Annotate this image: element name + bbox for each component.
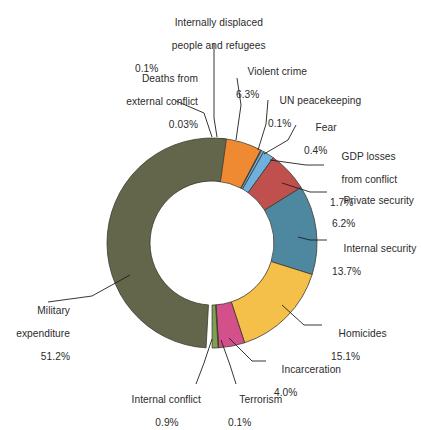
label-military-expenditure: Military expenditure 51.2%	[0, 294, 70, 385]
label-internal-conflict-value: 0.9%	[120, 417, 214, 428]
label-terrorism-line1: Terrorism	[239, 394, 282, 405]
label-un-peacekeeping-line1: UN peacekeeping	[280, 95, 362, 106]
label-terrorism: Terrorism 0.1%	[228, 383, 308, 430]
label-incarceration-line1: Incarceration	[282, 364, 342, 375]
donut-slice	[231, 262, 312, 343]
label-internally-displaced-line2: people and refugees	[172, 40, 266, 51]
label-fear-line1: Fear	[316, 122, 337, 133]
label-internal-security: Internal security 13.7%	[332, 232, 423, 300]
label-deaths-external-conflict-line2: external conflict	[126, 96, 198, 107]
label-internal-security-line1: Internal security	[344, 243, 417, 254]
label-deaths-external-conflict-value: 0.03%	[88, 119, 198, 130]
label-deaths-external-conflict-line1: Deaths from	[142, 73, 198, 84]
label-internally-displaced-line1: Internally displaced	[175, 17, 263, 28]
label-private-security-value: 6.2%	[332, 218, 423, 229]
label-violent-crime-line1: Violent crime	[248, 66, 307, 77]
label-homicides-line1: Homicides	[339, 328, 387, 339]
label-military-expenditure-line1: Military	[37, 305, 70, 316]
label-internal-conflict: Internal conflict 0.9%	[120, 383, 230, 430]
label-military-expenditure-line2: expenditure	[16, 328, 70, 339]
donut-slice	[107, 138, 226, 348]
label-military-expenditure-value: 51.2%	[0, 351, 70, 362]
label-internal-security-value: 13.7%	[332, 266, 423, 277]
donut-slices	[107, 138, 317, 348]
label-internal-conflict-line1: Internal conflict	[132, 394, 201, 405]
label-private-security-line1: Private security	[344, 195, 414, 206]
label-gdp-losses-line1: GDP losses	[342, 151, 396, 162]
label-deaths-external-conflict: Deaths from external conflict 0.03%	[88, 62, 198, 153]
label-terrorism-value: 0.1%	[228, 417, 308, 428]
